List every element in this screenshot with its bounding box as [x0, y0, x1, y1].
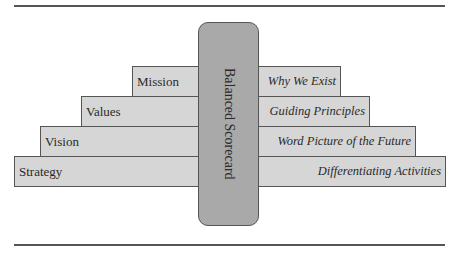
step-strategy-right: Differentiating Activities: [258, 156, 446, 187]
step-label: Vision: [45, 134, 79, 150]
step-label: Mission: [137, 74, 179, 90]
step-label: Differentiating Activities: [318, 164, 441, 179]
step-mission-right: Why We Exist: [258, 66, 341, 97]
step-label: Values: [86, 104, 121, 120]
step-values-left: Values: [81, 96, 199, 127]
step-label: Guiding Principles: [270, 104, 365, 119]
step-label: Strategy: [19, 164, 62, 180]
bottom-rule: [14, 244, 445, 246]
step-strategy-left: Strategy: [14, 156, 199, 187]
step-values-right: Guiding Principles: [258, 96, 370, 127]
pillar-label: Balanced Scorecard: [221, 68, 237, 180]
step-vision-left: Vision: [40, 126, 199, 157]
top-rule: [14, 5, 445, 7]
step-label: Word Picture of the Future: [277, 134, 411, 149]
step-mission-left: Mission: [132, 66, 199, 97]
step-label: Why We Exist: [268, 74, 336, 89]
step-vision-right: Word Picture of the Future: [258, 126, 416, 157]
balanced-scorecard-pillar: Balanced Scorecard: [198, 22, 259, 226]
